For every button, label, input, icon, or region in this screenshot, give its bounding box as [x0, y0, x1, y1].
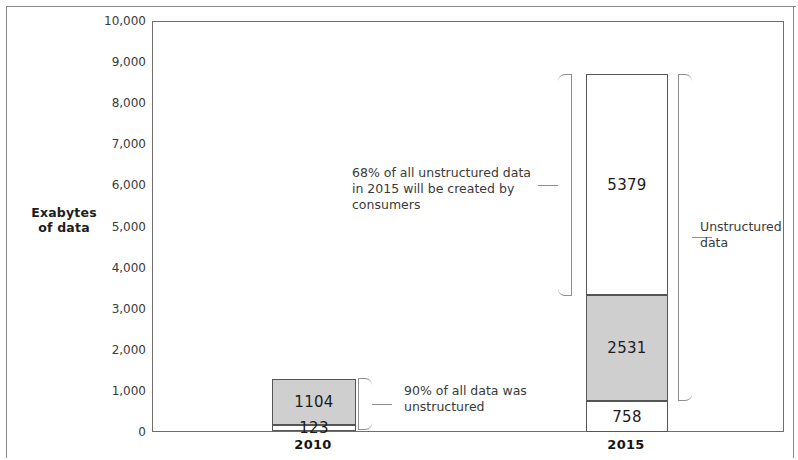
- y-tick-10000: 10,000: [92, 14, 146, 28]
- bar-2010-white-label: 123: [299, 419, 329, 437]
- bracket-2010-pointer: [372, 404, 392, 405]
- callout-unstructured-2010-text: 90% of all data was unstructured: [404, 383, 584, 415]
- bracket-2010-unstructured: [358, 378, 372, 430]
- frame-left-border: [6, 6, 7, 458]
- plot-area: 1104 123 5379 2531 758: [152, 21, 784, 432]
- y-tick-8000: 8,000: [92, 96, 146, 110]
- y-axis-ticks: 10,000 9,000 8,000 7,000 6,000 5,000 4,0…: [92, 0, 146, 460]
- callout-consumers-text: 68% of all unstructured data in 2015 wil…: [352, 165, 542, 213]
- bar-2015-top-label: 5379: [607, 176, 646, 194]
- bar-2010-segment-white: 123: [272, 425, 356, 431]
- bracket-2015-unstructured: [678, 74, 692, 401]
- y-tick-1000: 1,000: [92, 384, 146, 398]
- callout-unstructured-line1: Unstructured: [700, 219, 790, 235]
- bar-2015-gray-label: 2531: [607, 339, 646, 357]
- bar-2015-bottom-label: 758: [612, 408, 642, 426]
- y-tick-9000: 9,000: [92, 55, 146, 69]
- bracket-2015-consumers: [558, 74, 572, 296]
- callout-unstructured-label: Unstructured data: [700, 219, 790, 251]
- y-tick-2000: 2,000: [92, 343, 146, 357]
- frame-right-border: [793, 6, 794, 458]
- bar-2015-segment-top-white: 5379: [586, 74, 668, 295]
- x-category-2015: 2015: [607, 437, 644, 452]
- y-tick-3000: 3,000: [92, 302, 146, 316]
- y-tick-0: 0: [92, 425, 146, 439]
- y-tick-5000: 5,000: [92, 220, 146, 234]
- y-tick-6000: 6,000: [92, 178, 146, 192]
- figure-container: Exabytes of data 10,000 9,000 8,000 7,00…: [0, 0, 798, 460]
- bar-2015-segment-gray: 2531: [586, 295, 668, 401]
- callout-unstructured-line2: data: [700, 235, 790, 251]
- bar-2010-gray-label: 1104: [294, 393, 333, 411]
- y-tick-7000: 7,000: [92, 137, 146, 151]
- bar-2015-segment-bottom-white: 758: [586, 401, 668, 432]
- x-category-2010: 2010: [294, 437, 331, 452]
- y-tick-4000: 4,000: [92, 261, 146, 275]
